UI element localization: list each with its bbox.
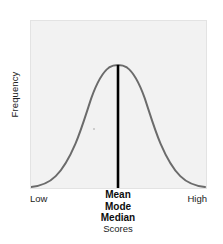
x-tick-label-low: Low	[30, 193, 47, 204]
distribution-curve-svg	[31, 21, 206, 188]
x-tick-label-high: High	[187, 193, 207, 204]
plot-area	[30, 20, 207, 189]
stat-label-mean: Mean	[101, 189, 135, 201]
cropped-caption	[0, 238, 223, 244]
normal-distribution-figure: Frequency Low High Mean Mode Median Scor…	[0, 0, 223, 244]
center-statistic-labels: Mean Mode Median	[101, 189, 135, 224]
scan-speck-artifact	[93, 128, 95, 130]
x-axis-title: Scores	[103, 223, 133, 234]
stat-label-mode: Mode	[101, 201, 135, 213]
y-axis-title: Frequency	[0, 0, 30, 189]
stat-label-median: Median	[101, 212, 135, 224]
y-axis-title-label: Frequency	[10, 72, 21, 118]
